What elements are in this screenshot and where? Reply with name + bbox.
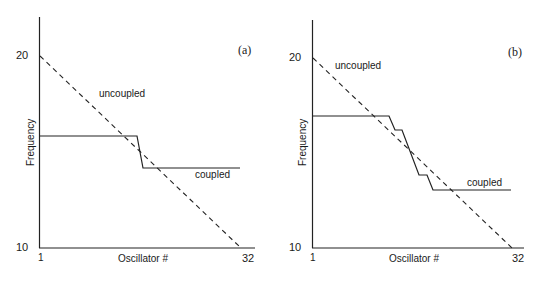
x-tick-32: 32: [512, 252, 524, 264]
y-tick-20: 20: [16, 49, 28, 61]
plot-area-b: [272, 0, 544, 283]
y-axis-label: Frequency: [25, 119, 36, 166]
chart-panel-a: 20 10 1 32 Oscillator # Frequency (a) un…: [0, 0, 272, 283]
panel-label-b: (b): [508, 45, 522, 60]
coupled-annotation: coupled: [467, 177, 502, 188]
y-axis-label: Frequency: [297, 119, 308, 166]
y-tick-10: 10: [16, 241, 28, 253]
plot-area-a: [0, 0, 272, 283]
uncoupled-annotation: uncoupled: [335, 60, 381, 71]
coupled-line: [40, 136, 240, 168]
uncoupled-annotation: uncoupled: [99, 88, 145, 99]
x-axis-label: Oscillator #: [118, 253, 168, 264]
x-tick-1: 1: [310, 252, 316, 263]
x-tick-1: 1: [38, 252, 44, 263]
y-tick-20: 20: [289, 51, 301, 63]
x-axis-label: Oscillator #: [389, 253, 439, 264]
x-tick-32: 32: [242, 252, 254, 264]
y-tick-10: 10: [289, 241, 301, 253]
coupled-annotation: coupled: [195, 169, 230, 180]
chart-panel-b: 20 10 1 32 Oscillator # Frequency (b) un…: [272, 0, 544, 283]
panel-label-a: (a): [238, 43, 251, 58]
uncoupled-line: [313, 58, 512, 248]
